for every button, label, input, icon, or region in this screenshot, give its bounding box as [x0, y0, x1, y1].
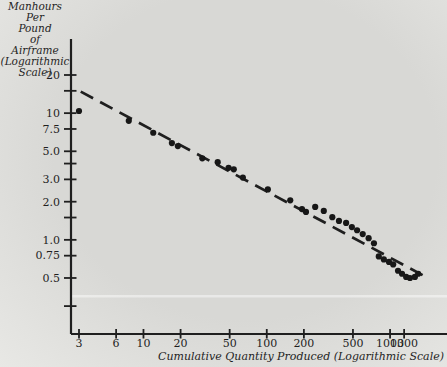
scanned-figure-page: Manhours Per Pound of Airframe (Logarith… [0, 0, 447, 367]
data-point [354, 227, 360, 233]
data-point [287, 197, 293, 203]
y-axis-tick-label: 0.75 [36, 249, 61, 262]
data-point [175, 143, 181, 149]
data-point [240, 174, 246, 180]
data-point [231, 166, 237, 172]
y-axis-tick-label: 3.0 [43, 173, 61, 186]
x-axis-tick-label: 3 [76, 337, 83, 350]
x-axis-tick-label: 1300 [390, 337, 418, 350]
y-axis-tick-label: 7.5 [43, 123, 61, 136]
data-point [390, 261, 396, 267]
scatter-plot: 20107.55.03.02.01.00.750.536102050100200… [0, 0, 447, 367]
y-axis-tick-label: 2.0 [43, 196, 61, 209]
data-point [312, 204, 318, 210]
x-axis-tick-label: 500 [342, 337, 363, 350]
trend-line [81, 92, 428, 278]
y-axis-tick-label: 0.5 [43, 272, 61, 285]
data-point [215, 159, 221, 165]
data-point [265, 186, 271, 192]
x-axis-tick-label: 20 [174, 337, 188, 350]
y-axis-tick-label: 5.0 [43, 145, 61, 158]
data-point [371, 240, 377, 246]
x-axis-tick-label: 6 [113, 337, 120, 350]
data-point [150, 130, 156, 136]
data-point [366, 235, 372, 241]
data-point [169, 140, 175, 146]
data-point [336, 218, 342, 224]
scan-artifact-line [71, 295, 447, 298]
data-point [303, 209, 309, 215]
y-axis-tick-label: 10 [46, 107, 60, 120]
data-point [321, 208, 327, 214]
x-axis-tick-label: 10 [136, 337, 150, 350]
data-point [76, 108, 82, 114]
y-axis-tick-label: 20 [46, 69, 60, 82]
data-point [343, 220, 349, 226]
x-axis-tick-label: 200 [293, 337, 314, 350]
data-point [349, 224, 355, 230]
data-point [415, 271, 421, 277]
x-axis-tick-label: 50 [223, 337, 237, 350]
data-point [199, 155, 205, 161]
data-point [126, 118, 132, 124]
x-axis-tick-label: 100 [256, 337, 277, 350]
y-axis-tick-label: 1.0 [43, 234, 61, 247]
data-point [360, 231, 366, 237]
data-point [225, 165, 231, 171]
data-point [329, 214, 335, 220]
x-axis-title: Cumulative Quantity Produced (Logarithmi… [158, 350, 444, 363]
